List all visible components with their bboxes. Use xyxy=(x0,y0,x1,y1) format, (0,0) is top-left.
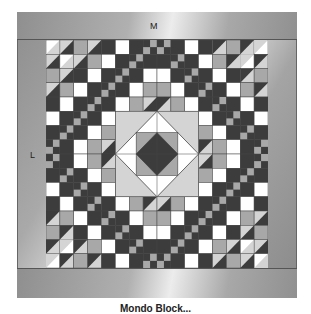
quilt-square xyxy=(199,40,213,54)
four-patch-square xyxy=(53,140,60,147)
quilt-square xyxy=(129,83,143,97)
quilt-square xyxy=(213,240,227,254)
quilt-square xyxy=(115,240,129,254)
quilt-square xyxy=(129,254,143,268)
quilt-square xyxy=(129,69,143,83)
quilt-square xyxy=(102,69,116,83)
four-patch-square xyxy=(206,83,213,90)
quilt-square xyxy=(213,168,227,182)
four-patch-square xyxy=(226,190,233,197)
quilt-square xyxy=(199,240,213,254)
quilt-square xyxy=(240,97,254,111)
quilt-square xyxy=(254,183,268,197)
quilt-square xyxy=(213,111,227,125)
four-patch-square xyxy=(143,261,150,268)
four-patch-square xyxy=(74,190,81,197)
quilt-square xyxy=(226,126,240,140)
quilt-square xyxy=(60,211,74,225)
four-patch-square xyxy=(171,61,178,68)
quilt-square xyxy=(199,54,213,68)
quilt-square xyxy=(199,183,213,197)
quilt-square xyxy=(129,97,143,111)
quilt-square xyxy=(199,254,213,268)
quilt-square xyxy=(185,254,199,268)
quilt-square xyxy=(185,240,199,254)
quilt-square xyxy=(213,69,227,83)
quilt-square xyxy=(46,197,60,211)
quilt-square xyxy=(115,40,129,54)
quilt-square xyxy=(199,69,213,83)
four-patch-square xyxy=(261,154,268,161)
top-border-label: M xyxy=(150,21,158,31)
quilt-square xyxy=(226,83,240,97)
quilt-square xyxy=(226,168,240,182)
quilt-square xyxy=(240,83,254,97)
quilt-square xyxy=(88,154,102,168)
quilt-square xyxy=(102,197,116,211)
quilt-square xyxy=(60,111,74,125)
quilt-square xyxy=(213,154,227,168)
four-patch-square xyxy=(129,61,136,68)
quilt-square xyxy=(74,197,88,211)
quilt-square xyxy=(60,154,74,168)
four-patch-square xyxy=(53,154,60,161)
four-patch-square xyxy=(254,161,261,168)
quilt-square xyxy=(185,54,199,68)
side-border-label: L xyxy=(30,150,35,160)
four-patch-square xyxy=(157,261,164,268)
four-patch-square xyxy=(219,97,226,104)
quilt-square xyxy=(226,40,240,54)
four-patch-square xyxy=(226,118,233,125)
quilt-square xyxy=(254,126,268,140)
quilt-square xyxy=(185,40,199,54)
quilt-square xyxy=(226,97,240,111)
quilt-square xyxy=(46,126,60,140)
quilt-square xyxy=(88,225,102,239)
quilt-square xyxy=(213,183,227,197)
quilt-square xyxy=(88,83,102,97)
four-patch-square xyxy=(213,204,220,211)
four-patch-square xyxy=(199,90,206,97)
four-patch-square xyxy=(67,126,74,133)
quilt-square xyxy=(226,197,240,211)
quilt-square xyxy=(254,197,268,211)
quilt-square xyxy=(185,97,199,111)
four-patch-square xyxy=(219,197,226,204)
quilt-square xyxy=(199,126,213,140)
four-patch-square xyxy=(150,254,157,261)
four-patch-square xyxy=(60,133,67,140)
quilt-square xyxy=(88,69,102,83)
quilt-square xyxy=(115,254,129,268)
quilt-square xyxy=(199,225,213,239)
quilt-square xyxy=(74,126,88,140)
quilt-square xyxy=(226,225,240,239)
quilt-square xyxy=(171,97,185,111)
quilt-square xyxy=(171,197,185,211)
quilt-square xyxy=(143,83,157,97)
quilt-square xyxy=(102,97,116,111)
caption: Mondo Block... xyxy=(0,303,311,314)
quilt-square xyxy=(88,111,102,125)
four-patch-square xyxy=(129,247,136,254)
quilt-square xyxy=(185,211,199,225)
bottom-border xyxy=(17,268,297,298)
quilt-square xyxy=(129,40,143,54)
four-patch-square xyxy=(88,204,95,211)
four-patch-square xyxy=(164,254,171,261)
quilt-square xyxy=(254,168,268,182)
four-patch-square xyxy=(164,40,171,47)
quilt-square xyxy=(74,211,88,225)
quilt-square xyxy=(171,83,185,97)
quilt-square xyxy=(254,97,268,111)
four-patch-square xyxy=(81,111,88,118)
quilt-square xyxy=(88,140,102,154)
quilt-square xyxy=(102,40,116,54)
quilt-square xyxy=(143,54,157,68)
quilt-square xyxy=(199,97,213,111)
quilt-square xyxy=(254,225,268,239)
quilt-square xyxy=(226,254,240,268)
four-patch-square xyxy=(178,54,185,61)
four-patch-square xyxy=(240,175,247,182)
four-patch-square xyxy=(233,111,240,118)
four-patch-square xyxy=(67,168,74,175)
